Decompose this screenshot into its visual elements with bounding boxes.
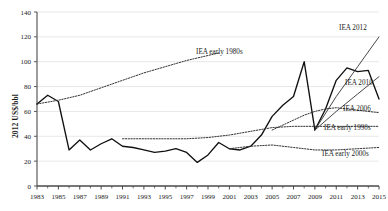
series-annotations: IEA early 1980sIEA 2012IEA 2010IEA 2006I… <box>196 24 373 158</box>
y-axis <box>34 12 37 186</box>
y-tick-label: 80 <box>24 83 32 91</box>
x-tick-label: 1995 <box>158 193 173 201</box>
x-tick-label: 1985 <box>51 193 66 201</box>
series-annotation-label: IEA 2010 <box>345 79 373 87</box>
y-tick-labels: 020406080100120140 <box>21 9 32 191</box>
x-tick-label: 1989 <box>94 193 109 201</box>
y-tick-label: 100 <box>21 58 32 66</box>
x-tick-label: 2003 <box>244 193 259 201</box>
series-annotation-label: IEA early 1990s <box>324 124 371 132</box>
x-tick-label: 2015 <box>372 193 387 201</box>
series-annotation-label: IEA early 1980s <box>196 48 243 56</box>
x-tick-label: 1987 <box>73 193 88 201</box>
x-tick-label: 2009 <box>308 193 323 201</box>
x-tick-label: 2007 <box>287 193 302 201</box>
x-tick-label: 2001 <box>222 193 237 201</box>
y-tick-label: 0 <box>28 183 32 191</box>
series-line <box>37 53 219 104</box>
y-tick-label: 120 <box>21 33 32 41</box>
x-tick-label: 2005 <box>265 193 280 201</box>
x-tick-label: 1999 <box>201 193 216 201</box>
gridlines <box>37 12 379 161</box>
y-tick-label: 60 <box>24 108 32 116</box>
oil-price-projection-chart: 020406080100120140 198319851987198919911… <box>0 0 388 211</box>
series-annotation-label: IEA 2006 <box>343 105 371 113</box>
x-tick-label: 1991 <box>116 193 131 201</box>
x-tick-label: 2011 <box>329 193 343 201</box>
y-axis-title: 2012 US$/bbl <box>11 94 20 138</box>
x-tick-labels: 1983198519871989199119931995199719992001… <box>30 193 387 201</box>
series-annotation-label: IEA early 2000s <box>322 150 369 158</box>
y-tick-label: 40 <box>24 133 32 141</box>
y-tick-label: 20 <box>24 158 32 166</box>
x-tick-label: 2013 <box>351 193 366 201</box>
series-annotation-label: IEA 2012 <box>339 24 367 32</box>
series-line <box>37 62 379 163</box>
y-tick-label: 140 <box>21 9 32 17</box>
x-tick-label: 1997 <box>180 193 195 201</box>
x-tick-label: 1993 <box>137 193 152 201</box>
x-tick-label: 1983 <box>30 193 45 201</box>
chart-canvas: 020406080100120140 198319851987198919911… <box>0 0 388 211</box>
x-axis <box>37 186 379 190</box>
